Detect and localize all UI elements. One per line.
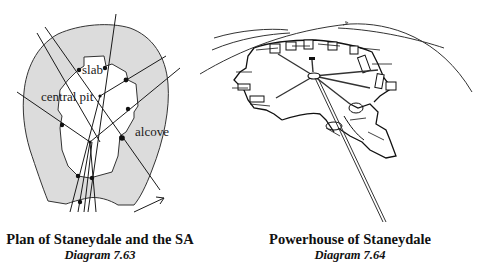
perspective-diagram (200, 0, 482, 222)
perspective-drawing (200, 0, 482, 222)
caption-plan: Plan of Staneydale and the SA Diagram 7.… (0, 231, 200, 263)
caption-perspective-title: Powerhouse of Staneydale (250, 231, 450, 248)
caption-perspective-subtitle: Diagram 7.64 (250, 248, 450, 263)
horizon-arcs (200, 22, 472, 92)
plan-drawing: slab central pit alcove (0, 0, 210, 220)
caption-plan-title: Plan of Staneydale and the SA (0, 231, 200, 248)
label-central-pit: central pit (41, 89, 94, 104)
caption-perspective: Powerhouse of Staneydale Diagram 7.64 (250, 231, 450, 263)
plan-diagram: slab central pit alcove (0, 0, 210, 220)
far-marker (309, 57, 315, 60)
long-sight-line (315, 78, 386, 222)
label-slab: slab (82, 62, 103, 77)
label-alcove: alcove (135, 124, 169, 139)
caption-plan-subtitle: Diagram 7.63 (0, 248, 200, 263)
